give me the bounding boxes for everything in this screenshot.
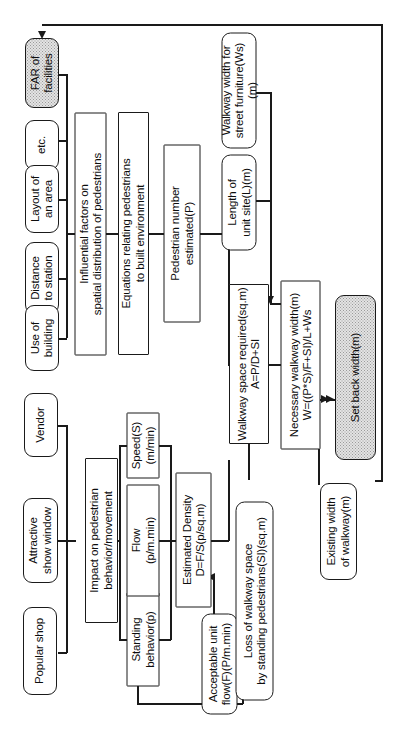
node-label: Flow (p/m.min)	[130, 517, 156, 564]
node-layout-of-an-area[interactable]: Layout of an area	[25, 165, 59, 233]
connector-geometry-bus-vertical	[270, 92, 272, 304]
node-far-of-facilities[interactable]: FAR of facilities	[25, 38, 59, 108]
connector-equations-to-pednumber	[148, 233, 164, 235]
connector-attractor-bus-vertical	[66, 425, 68, 653]
node-etc[interactable]: etc.	[25, 120, 59, 170]
node-acceptable-unit-flow[interactable]: Acceptable unit flow(F)(P/m.min)	[202, 614, 238, 715]
connector-factor-bus-vertical	[66, 74, 68, 338]
connector-usebuilding-stub	[58, 338, 67, 340]
node-impact-on-pedestrian[interactable]: Impact on pedestrian behavior/movement	[85, 458, 118, 623]
connector-bus-to-impact	[66, 540, 76, 542]
node-label: Estimated Density D=F/S(p/sq.m)	[180, 495, 206, 585]
connector-vendor-stub	[58, 425, 67, 427]
node-pedestrian-number-estimated[interactable]: Pedestrian number estimated(P)	[164, 145, 201, 323]
node-label: Existing width of walkway(m)	[325, 496, 351, 568]
node-necessary-walkway-width[interactable]: Necessary walkway width(m) W=((P*S)/F+SI…	[281, 281, 321, 450]
node-label: Acceptable unit flow(F)(P/m.min)	[206, 623, 232, 706]
node-estimated-density[interactable]: Estimated Density D=F/S(p/sq.m)	[176, 473, 212, 608]
node-label: Distance to station	[29, 255, 55, 300]
node-walkway-space-required[interactable]: Walkway space required(sq.m) A=P/D+SI	[229, 284, 269, 444]
node-length-of-unit-site[interactable]: Length of unit site(L)(m)	[222, 155, 257, 251]
connector-standing-out	[158, 639, 171, 641]
node-standing-behavior[interactable]: Standing behavior(p)	[127, 593, 160, 687]
node-label: Necessary walkway width(m) W=((P*S)/F+SI…	[287, 293, 313, 437]
node-set-back-width[interactable]: Set back width(m)	[335, 295, 376, 460]
connector-layout-stub	[58, 199, 67, 201]
node-loss-of-walkway-space[interactable]: Loss of walkway space by standing pedest…	[236, 502, 274, 701]
node-walkway-width-street-furniture[interactable]: Walkway width for street furniture(Ws)(m…	[222, 33, 257, 149]
connector-feedback-top-horizontal	[42, 24, 382, 26]
node-vendor[interactable]: Vendor	[24, 393, 58, 457]
node-existing-width-of-walkway[interactable]: Existing width of walkway(m)	[320, 483, 357, 580]
connector-density-up	[228, 460, 230, 541]
connector-feedback-right-vertical	[381, 24, 383, 480]
node-distance-to-station[interactable]: Distance to station	[25, 242, 59, 314]
node-influential-factors[interactable]: Influential factors on spatial distribut…	[75, 113, 107, 356]
node-speed[interactable]: Speed(S) (m/min)	[127, 413, 160, 479]
node-label: Loss of walkway space by standing pedest…	[241, 517, 267, 685]
node-label: Layout of an area	[29, 176, 55, 222]
connector-behavior-bus-right	[170, 445, 172, 640]
node-label: Walkway width for street furniture(Ws)(m…	[219, 36, 258, 146]
diagram-canvas: FAR of facilities etc. Layout of an area…	[0, 0, 408, 740]
node-equations-relating[interactable]: Equations relating pedestrians to built …	[118, 112, 149, 355]
node-label: FAR of facilities	[29, 53, 55, 92]
node-label: Vendor	[34, 407, 47, 443]
node-label: Walkway space required(sq.m) A=P/D+SI	[236, 287, 262, 440]
connector-popularshop-stub	[58, 652, 67, 654]
node-popular-shop[interactable]: Popular shop	[23, 607, 57, 695]
node-label: Pedestrian number estimated(P)	[169, 186, 195, 281]
node-label: Speed(S) (m/min)	[130, 422, 156, 469]
connector-setback-out-horizontal	[375, 480, 382, 482]
node-label: Standing behavior(p)	[130, 611, 156, 668]
node-label: Equations relating pedestrians to built …	[120, 158, 146, 308]
node-label: Set back width(m)	[349, 333, 362, 422]
connector-behavior-bus-left	[119, 445, 121, 640]
node-attractive-show-window[interactable]: Attractive show window	[23, 498, 58, 583]
node-label: etc.	[35, 136, 48, 154]
node-label: Influential factors on spatial distribut…	[77, 153, 103, 315]
connector-etc-stub	[58, 140, 67, 142]
node-label: Impact on pedestrian behavior/movement	[88, 488, 114, 592]
connector-necessary-to-setback	[320, 399, 336, 401]
node-use-of-building[interactable]: Use of building	[25, 305, 59, 371]
node-label: Use of building	[29, 319, 55, 357]
node-label: Popular shop	[33, 618, 46, 684]
node-flow[interactable]: Flow (p/m.min)	[127, 485, 160, 597]
connector-speed-out	[158, 445, 171, 447]
connector-loss-vertical	[248, 440, 250, 480]
connector-unitsite-stub	[256, 200, 271, 202]
connector-setback-out-vertical	[381, 460, 383, 482]
connector-far-stub	[58, 74, 67, 76]
connector-distance-stub	[58, 278, 67, 280]
node-label: Length of unit site(L)(m)	[226, 168, 252, 237]
node-label: Attractive show window	[27, 507, 53, 574]
